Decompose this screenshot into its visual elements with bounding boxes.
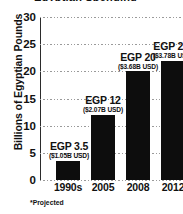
chart-title-text: Egyptian Spending [34, 0, 174, 1]
plot-area: 30 25 20 15 10 5 0 EGP 3.5 ($1.05B USD) … [40, 17, 183, 180]
y-axis-title: Billions of Egyptian Pounds [12, 2, 24, 162]
y-tick-10: 10 [23, 120, 36, 132]
bar-value-1990s: EGP 3.5 [46, 141, 92, 152]
bar-usd-1990s: ($1.05B USD) [46, 152, 92, 159]
chart-title-clipped: Egyptian Spending [34, 0, 174, 1]
x-tick-2008: 2008 [119, 181, 157, 193]
bar-usd-2012: ($3.78B USD) [149, 52, 183, 59]
bar-value-2005: EGP 12 [80, 95, 126, 106]
y-tick-15: 15 [23, 93, 36, 105]
bar-label-2005: EGP 12 ($2.07B USD) [80, 95, 126, 113]
footnote-projected: *Projected [30, 199, 64, 206]
y-tick-0: 0 [30, 174, 36, 186]
bar-slot-2012[interactable] [161, 61, 183, 181]
bar-2008[interactable] [126, 71, 150, 180]
bar-label-1990s: EGP 3.5 ($1.05B USD) [46, 141, 92, 159]
y-tick-20: 20 [23, 65, 36, 77]
x-tick-2012: 2012 [154, 181, 183, 193]
bar-2012[interactable] [161, 61, 183, 181]
x-tick-2005: 2005 [84, 181, 122, 193]
y-tick-30: 30 [23, 11, 36, 23]
bar-value-2012: EGP 22* [149, 41, 183, 52]
bar-1990s[interactable] [56, 161, 80, 180]
bar-2005[interactable] [91, 115, 115, 180]
y-tick-25: 25 [23, 38, 36, 50]
bar-series: EGP 3.5 ($1.05B USD) EGP 12 ($2.07B USD)… [40, 17, 183, 180]
bar-slot-1990s[interactable] [56, 161, 80, 180]
y-tick-5: 5 [30, 147, 36, 159]
bar-label-2012: EGP 22* ($3.78B USD) [149, 41, 183, 59]
bar-usd-2008: ($3.68B USD) [115, 63, 161, 70]
bar-chart: Egyptian Spending Billions of Egyptian P… [0, 0, 183, 214]
bar-slot-2008[interactable] [126, 71, 150, 180]
bar-usd-2005: ($2.07B USD) [80, 106, 126, 113]
bar-slot-2005[interactable] [91, 115, 115, 180]
x-axis: 1990s 2005 2008 2012 [40, 181, 183, 195]
